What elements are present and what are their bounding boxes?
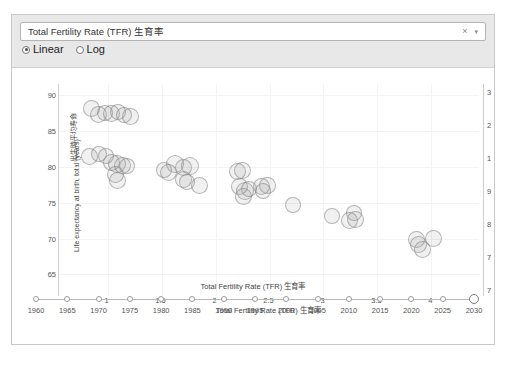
secondary-axis-tick-label: 3 <box>487 88 491 97</box>
grid-line-horizontal <box>59 274 479 275</box>
timeline-handle[interactable] <box>346 296 352 302</box>
timeline-handle[interactable] <box>221 296 227 302</box>
indicator-select[interactable]: Total Fertility Rate (TFR) 生育率 × ▾ <box>20 22 486 41</box>
secondary-axis-tick-label: 1 <box>487 154 491 163</box>
timeline-year-label[interactable]: 1975 <box>122 306 139 315</box>
timeline-year-label[interactable]: 2010 <box>341 306 358 315</box>
close-icon[interactable]: × <box>462 27 467 36</box>
timeline-handles[interactable] <box>36 294 474 306</box>
indicator-select-icons: × ▾ <box>462 27 485 36</box>
timeline-handle[interactable] <box>189 296 195 302</box>
timeline-labels: 1960196519701975198019851990199520002005… <box>36 306 474 318</box>
timeline-year-label[interactable]: 2000 <box>278 306 295 315</box>
timeline-year-label[interactable]: 1985 <box>184 306 201 315</box>
chart-header: Total Fertility Rate (TFR) 生育率 × ▾ Linea… <box>12 15 494 68</box>
radio-log-dot[interactable] <box>76 46 84 54</box>
scatter-plot-area[interactable]: Life expectancy at birth, total (years) … <box>58 84 479 296</box>
screenshot-root: Total Fertility Rate (TFR) 生育率 × ▾ Linea… <box>0 0 507 369</box>
timeline-handle[interactable] <box>315 296 321 302</box>
timeline-handle[interactable] <box>408 296 414 302</box>
secondary-axis: 3219877 <box>483 84 507 296</box>
indicator-select-value: Total Fertility Rate (TFR) 生育率 <box>21 23 462 40</box>
radio-linear-label: Linear <box>33 44 64 55</box>
radio-log-label: Log <box>87 44 105 55</box>
secondary-axis-tick-label: 8 <box>487 220 491 229</box>
timeline-handle[interactable] <box>377 296 383 302</box>
secondary-axis-tick-label: 7 <box>487 253 491 262</box>
timeline-year-label[interactable]: 1980 <box>153 306 170 315</box>
timeline-year-label[interactable]: 1965 <box>59 306 76 315</box>
data-point-bubble[interactable] <box>285 197 301 213</box>
grid-line-vertical <box>216 84 217 296</box>
secondary-axis-tick-label: 9 <box>487 187 491 196</box>
timeline-handle[interactable] <box>252 296 258 302</box>
y-axis-tick-label: 75 <box>36 198 56 207</box>
timeline-year-label[interactable]: 1960 <box>28 306 45 315</box>
scale-radio-group: Linear Log <box>22 44 105 55</box>
timeline-handle[interactable] <box>33 296 39 302</box>
grid-line-vertical <box>431 84 432 296</box>
timeline-title: Total Fertility Rate (TFR) 生育率 <box>12 280 494 291</box>
timeline-handle[interactable] <box>283 296 289 302</box>
data-point-bubble[interactable] <box>347 211 364 228</box>
radio-linear[interactable]: Linear <box>22 44 64 55</box>
radio-log[interactable]: Log <box>76 44 105 55</box>
timeline-handle[interactable] <box>469 294 479 304</box>
grid-line-vertical <box>377 84 378 296</box>
timeline-handle[interactable] <box>127 296 133 302</box>
timeline-year-label[interactable]: 1990 <box>215 306 232 315</box>
data-point-bubble[interactable] <box>122 108 139 125</box>
grid-line-vertical <box>162 84 163 296</box>
year-timeline[interactable]: Total Fertility Rate (TFR) 生育率 196019651… <box>12 280 494 326</box>
chart-card: Total Fertility Rate (TFR) 生育率 × ▾ Linea… <box>11 14 495 345</box>
timeline-handle[interactable] <box>96 296 102 302</box>
grid-line-horizontal <box>59 203 479 204</box>
timeline-year-label[interactable]: 2005 <box>309 306 326 315</box>
timeline-handle[interactable] <box>440 296 446 302</box>
timeline-year-label[interactable]: 1995 <box>247 306 264 315</box>
y-axis-tick-label: 70 <box>36 234 56 243</box>
timeline-year-label[interactable]: 2025 <box>434 306 451 315</box>
chevron-down-icon[interactable]: ▾ <box>474 28 478 35</box>
timeline-handle[interactable] <box>158 296 164 302</box>
data-point-bubble[interactable] <box>255 183 271 199</box>
timeline-year-label[interactable]: 2030 <box>466 306 483 315</box>
data-point-bubble[interactable] <box>109 172 126 189</box>
timeline-year-label[interactable]: 1970 <box>90 306 107 315</box>
grid-line-horizontal <box>59 95 479 96</box>
data-point-bubble[interactable] <box>324 208 340 224</box>
timeline-year-label[interactable]: 2020 <box>403 306 420 315</box>
data-point-bubble[interactable] <box>425 230 442 247</box>
grid-line-horizontal <box>59 131 479 132</box>
data-point-bubble[interactable] <box>234 162 251 179</box>
data-point-bubble[interactable] <box>191 177 208 194</box>
grid-line-vertical <box>323 84 324 296</box>
y-axis-tick-label: 85 <box>36 126 56 135</box>
timeline-handle[interactable] <box>64 296 70 302</box>
y-axis-tick-label: 65 <box>36 270 56 279</box>
radio-linear-dot[interactable] <box>22 46 30 54</box>
secondary-axis-tick-label: 2 <box>487 121 491 130</box>
timeline-year-label[interactable]: 2015 <box>372 306 389 315</box>
y-axis-tick-label: 80 <box>36 162 56 171</box>
y-axis-ticks: 657075808590 <box>34 84 56 296</box>
y-axis-tick-label: 90 <box>36 90 56 99</box>
